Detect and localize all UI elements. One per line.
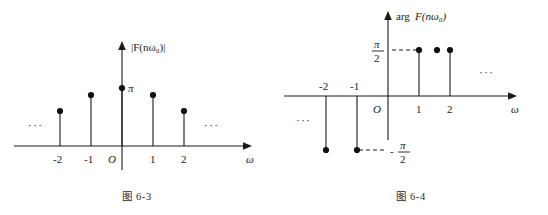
- caption-phase: 图 6-4: [274, 188, 548, 203]
- pi-over-2-numerator: π: [374, 38, 380, 50]
- stem-group-phase-negative: [326, 96, 357, 150]
- marker-zero: [119, 85, 125, 91]
- neg-pi-over-2-denominator: 2: [400, 153, 406, 165]
- right-ellipsis-magnitude: ···: [204, 119, 220, 131]
- marker-extra: [434, 47, 440, 53]
- origin-label-phase: O: [373, 103, 381, 115]
- figure-pair: |F(nω₀)| π ω O -2 -1 1 2 ··· ··· 图 6-3: [0, 0, 548, 215]
- marker-neg2: [323, 147, 329, 153]
- stem-group-magnitude: [60, 88, 184, 146]
- y-axis-phase: [384, 11, 392, 140]
- marker-neg2: [57, 108, 63, 114]
- stem-group-phase-positive: [419, 50, 450, 96]
- y-axis-label-phase-prefix: arg: [396, 10, 410, 22]
- y-value-label-pi: π: [128, 82, 134, 94]
- origin-label-magnitude: O: [108, 153, 116, 165]
- left-ellipsis-magnitude: ···: [28, 119, 44, 131]
- x-tick-label-pos2: 2: [447, 103, 453, 115]
- y-axis-label-magnitude: |F(nω₀)|: [131, 41, 165, 54]
- x-tick-label-pos1: 1: [416, 103, 422, 115]
- marker-neg1: [88, 92, 94, 98]
- plot-area-phase: arg F(nω₀) π 2 - π 2 ω O: [274, 0, 548, 185]
- x-axis-magnitude: [14, 142, 252, 150]
- y-value-label-neg-pi-over-2: - π 2: [390, 139, 410, 165]
- marker-pos2: [181, 108, 187, 114]
- phase-stem-plot: arg F(nω₀) π 2 - π 2 ω O: [274, 0, 548, 185]
- caption-magnitude: 图 6-3: [0, 188, 274, 203]
- y-axis-label-phase: F(nω₀): [414, 10, 446, 23]
- figure-magnitude-spectrum: |F(nω₀)| π ω O -2 -1 1 2 ··· ··· 图 6-3: [0, 0, 274, 215]
- y-value-label-pi-over-2: π 2: [372, 38, 384, 64]
- marker-neg1: [354, 147, 360, 153]
- neg-pi-over-2-numerator: π: [400, 139, 406, 151]
- x-tick-label-neg1: -1: [84, 153, 93, 165]
- magnitude-stem-plot: |F(nω₀)| π ω O -2 -1 1 2 ··· ···: [0, 0, 274, 185]
- right-ellipsis-phase: ···: [479, 66, 495, 78]
- marker-pos1: [150, 92, 156, 98]
- x-tick-label-neg1: -1: [350, 80, 359, 92]
- marker-pos2: [447, 47, 453, 53]
- marker-pos1: [416, 47, 422, 53]
- x-tick-label-pos1: 1: [150, 153, 156, 165]
- x-axis-label-magnitude: ω: [246, 153, 254, 165]
- x-tick-label-neg2: -2: [319, 80, 328, 92]
- pi-over-2-denominator: 2: [374, 52, 380, 64]
- x-tick-label-neg2: -2: [53, 153, 62, 165]
- figure-phase-spectrum: arg F(nω₀) π 2 - π 2 ω O: [274, 0, 548, 215]
- x-axis-phase: [284, 92, 517, 100]
- plot-area-magnitude: |F(nω₀)| π ω O -2 -1 1 2 ··· ···: [0, 0, 274, 185]
- x-tick-label-pos2: 2: [181, 153, 187, 165]
- x-axis-label-phase: ω: [511, 103, 519, 115]
- neg-pi-over-2-sign: -: [390, 145, 394, 157]
- left-ellipsis-phase: ···: [296, 114, 312, 126]
